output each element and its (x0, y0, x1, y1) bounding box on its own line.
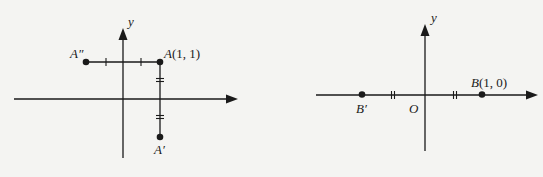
point-A2 (83, 59, 90, 66)
right-y-axis-label: y (429, 10, 437, 25)
diagram-canvas: y A(1, 1) A″ A′ y O B(1, 0) B′ (0, 0, 543, 177)
point-B1 (359, 91, 366, 98)
left-y-axis-label: y (126, 14, 134, 29)
label-A2: A″ (69, 46, 84, 61)
figure-reflection-A (14, 28, 238, 158)
left-x-axis-arrow-icon (226, 95, 238, 104)
left-y-axis-arrow-icon (119, 28, 128, 40)
point-A (157, 59, 164, 66)
point-A1 (157, 134, 164, 141)
label-B1: B′ (356, 101, 367, 116)
right-y-axis-arrow-icon (421, 24, 430, 36)
label-A: A(1, 1) (163, 46, 200, 61)
label-B: B(1, 0) (471, 75, 507, 90)
origin-label: O (409, 101, 419, 116)
label-A1: A′ (153, 142, 165, 157)
right-x-axis-arrow-icon (526, 91, 538, 100)
point-B (479, 91, 486, 98)
